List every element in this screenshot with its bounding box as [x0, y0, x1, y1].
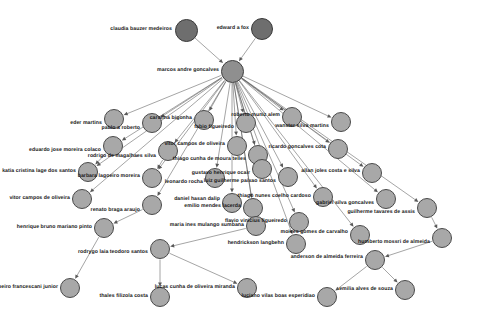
graph-node-label-allan: allan joles costa e silva — [301, 169, 360, 174]
graph-edge-arrowhead — [239, 57, 243, 61]
graph-node-vitorc2[interactable] — [72, 189, 92, 209]
graph-node-claudia[interactable] — [175, 19, 198, 42]
graph-node-label-luizg: luiz guilherme paixao santos — [204, 179, 276, 184]
graph-node-label-katia: katia cristina lage dos santos — [2, 169, 76, 174]
graph-node-allan[interactable] — [362, 163, 382, 183]
graph-node-label-emilia: emilia alves de souza — [339, 287, 393, 292]
graph-edge-arrowhead — [170, 244, 174, 248]
graph-node-emilia[interactable] — [395, 280, 415, 300]
graph-edge — [159, 160, 163, 166]
graph-node-humberto[interactable] — [432, 228, 452, 248]
graph-edge — [77, 237, 99, 276]
graph-edge-arrowhead — [230, 189, 234, 193]
graph-node-ricardo[interactable] — [328, 139, 348, 159]
graph-node-gustavo[interactable] — [252, 159, 272, 179]
graph-node-emilio[interactable] — [243, 198, 263, 218]
graph-node-label-wanster: wanster silva martins — [275, 124, 329, 129]
graph-node-label-henrique: henrique bruno mariano pinto — [17, 225, 92, 230]
graph-node-label-anderson: anderson de almeida ferreira — [291, 255, 363, 260]
graph-node-label-luciano: luciano vilas boas esperidiao — [241, 294, 315, 299]
graph-node-hendrickson[interactable] — [286, 234, 306, 254]
graph-node-label-carolina: carolina bigonha — [150, 116, 192, 121]
graph-node-wanster[interactable] — [331, 112, 351, 132]
graph-node-label-lucas: lucas cunha de oliveira miranda — [155, 285, 235, 290]
graph-node-label-flavio: flavio vinicius figueiredo — [225, 219, 287, 224]
graph-node-label-rodrigo: rodrigo de magalhaes silva — [88, 154, 156, 159]
graph-node-label-renato: renato braga araujo — [91, 208, 140, 213]
graph-node-label-claudia: claudia bauzer medeiros — [110, 27, 172, 32]
graph-node-luizg[interactable] — [278, 167, 298, 187]
graph-edge-arrowhead — [122, 137, 126, 141]
graph-edge-arrowhead — [234, 131, 238, 135]
graph-node-gabriel[interactable] — [376, 189, 396, 209]
graph-edge — [242, 78, 282, 108]
graph-edge — [241, 38, 256, 58]
graph-node-marcos[interactable] — [221, 60, 244, 83]
graph-node-label-thiagonc: thiago nunes coelho cardoso — [238, 194, 311, 199]
graph-node-barbara[interactable] — [142, 168, 162, 188]
graph-node-rodrygo[interactable] — [150, 239, 170, 259]
graph-node-vitorc1[interactable] — [227, 136, 247, 156]
graph-edge — [382, 267, 395, 280]
graph-node-label-geraldo: geraldo ribeiro francescani junior — [0, 285, 58, 290]
graph-node-label-moises: moises gomes de carvalho — [280, 230, 348, 235]
graph-edge — [127, 76, 221, 114]
graph-edge-arrowhead — [157, 192, 161, 196]
graph-node-label-leonardo: leonardo rocha — [165, 180, 203, 185]
graph-node-label-hendrickson: hendrickson langbehn — [228, 241, 284, 246]
graph-node-label-rodrygo: rodrygo laia teodoro santos — [78, 250, 148, 255]
graph-node-geraldo[interactable] — [60, 278, 80, 298]
graph-node-label-emilio: emilio mendes lacerda — [184, 204, 241, 209]
graph-node-label-humberto: humberto mossri de almeida — [358, 240, 430, 245]
graph-node-label-fabio: fabio figueiredo — [194, 125, 234, 130]
graph-canvas: claudia bauzer medeirosedward a foxmarco… — [0, 0, 481, 332]
graph-node-label-vitorc1: vitor campos de oliveira — [164, 142, 225, 147]
graph-node-edward[interactable] — [251, 18, 273, 40]
graph-node-renato[interactable] — [142, 195, 162, 215]
graph-edge — [338, 266, 367, 288]
graph-node-label-edward: edward a fox — [217, 26, 249, 31]
graph-node-label-gabriel: gabriel silva goncalves — [316, 201, 374, 206]
graph-node-label-vitorc2: vitor campos de oliveira — [9, 196, 70, 201]
graph-node-guilherme[interactable] — [417, 198, 437, 218]
graph-node-label-marcos: marcos andre goncalves — [157, 68, 219, 73]
graph-node-label-eder: eder martins — [70, 121, 102, 126]
graph-node-henrique[interactable] — [94, 218, 114, 238]
graph-edge — [432, 217, 436, 225]
graph-node-label-daniel: daniel hasan dalip — [174, 197, 220, 202]
graph-edge-arrowhead — [215, 163, 219, 167]
graph-node-anderson[interactable] — [365, 250, 385, 270]
graph-edge-arrowhead — [385, 254, 389, 258]
graph-node-label-thales: thales filizola costa — [99, 294, 148, 299]
graph-node-luciano[interactable] — [317, 287, 337, 307]
graph-edge — [195, 38, 221, 61]
graph-node-label-ricardo: ricardo goncalves cota — [268, 145, 326, 150]
graph-node-label-robertom: roberto muniz alem — [231, 113, 280, 118]
graph-node-label-pablo: pablo a roberto — [101, 126, 140, 131]
graph-edge — [170, 253, 235, 282]
graph-node-label-thiagocm: thiago cunha de moura telles — [173, 157, 246, 162]
graph-node-label-guilherme: guilherme tavares de assis — [347, 210, 415, 215]
graph-node-label-barbara: barbara lagoeiro moreira — [78, 174, 140, 179]
graph-node-label-gustavo: gustavo henrique ocair — [192, 171, 250, 176]
